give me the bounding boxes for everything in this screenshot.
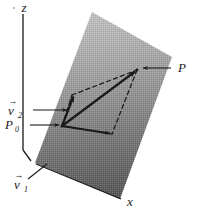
z-axis-label: z xyxy=(20,0,26,15)
P0-subscript: 0 xyxy=(15,125,19,134)
vector-plane-diagram: z x → v 2 P 0 xyxy=(0,0,198,214)
z-axis-tick-dot xyxy=(13,7,14,8)
label-P: P xyxy=(177,60,186,75)
v2-label: v xyxy=(8,103,14,118)
leader-v1 xyxy=(28,164,47,179)
point-P-dot xyxy=(136,69,139,72)
z-axis: z xyxy=(13,0,31,161)
point-P0-dot xyxy=(60,124,63,127)
P-label: P xyxy=(177,60,186,75)
label-v1: → v 1 xyxy=(14,170,28,194)
P0-label: P xyxy=(4,117,13,132)
v1-label: v xyxy=(14,177,20,192)
v2-subscript: 2 xyxy=(18,111,22,120)
shaded-plane xyxy=(35,12,172,199)
z-axis-foot xyxy=(23,150,31,161)
v1-subscript: 1 xyxy=(24,185,28,194)
plane-texture xyxy=(35,12,172,199)
x-axis-label: x xyxy=(126,194,133,209)
label-P0: P 0 xyxy=(4,117,19,134)
